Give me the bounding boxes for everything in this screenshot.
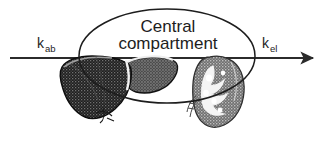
inlet-rate-label: k ab: [37, 35, 56, 54]
kidney-illustration: [187, 56, 244, 127]
inlet-rate-subscript: ab: [45, 43, 56, 54]
compartment-label-group: Central compartment: [118, 17, 217, 53]
inlet-rate-symbol: k: [37, 35, 45, 51]
outlet-rate-label: k el: [262, 35, 277, 54]
compartment-label-line2: compartment: [118, 34, 217, 53]
liver-right-lobe: [124, 57, 178, 93]
diagram-canvas: Central compartment k ab k el: [0, 0, 322, 144]
liver-left-lobe: [60, 56, 131, 119]
compartment-diagram-figure: Central compartment k ab k el: [0, 0, 322, 144]
liver-illustration: [60, 56, 177, 123]
outlet-rate-subscript: el: [270, 43, 277, 54]
outlet-rate-symbol: k: [262, 35, 270, 51]
